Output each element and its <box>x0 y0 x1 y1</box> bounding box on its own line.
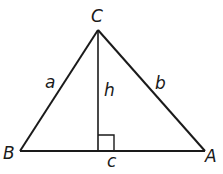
triangle-canvas: C B A a b c h <box>0 0 223 174</box>
side-label-c: c <box>107 151 117 171</box>
side-a-line <box>20 30 98 151</box>
triangle-diagram: C B A a b c h <box>0 0 223 174</box>
side-label-b: b <box>155 73 166 93</box>
vertex-label-a: A <box>204 146 217 166</box>
altitude-label-h: h <box>104 80 115 100</box>
vertex-label-c: C <box>91 6 103 26</box>
side-label-a: a <box>45 72 55 92</box>
right-angle-marker <box>98 135 114 151</box>
vertex-label-b: B <box>3 143 15 163</box>
